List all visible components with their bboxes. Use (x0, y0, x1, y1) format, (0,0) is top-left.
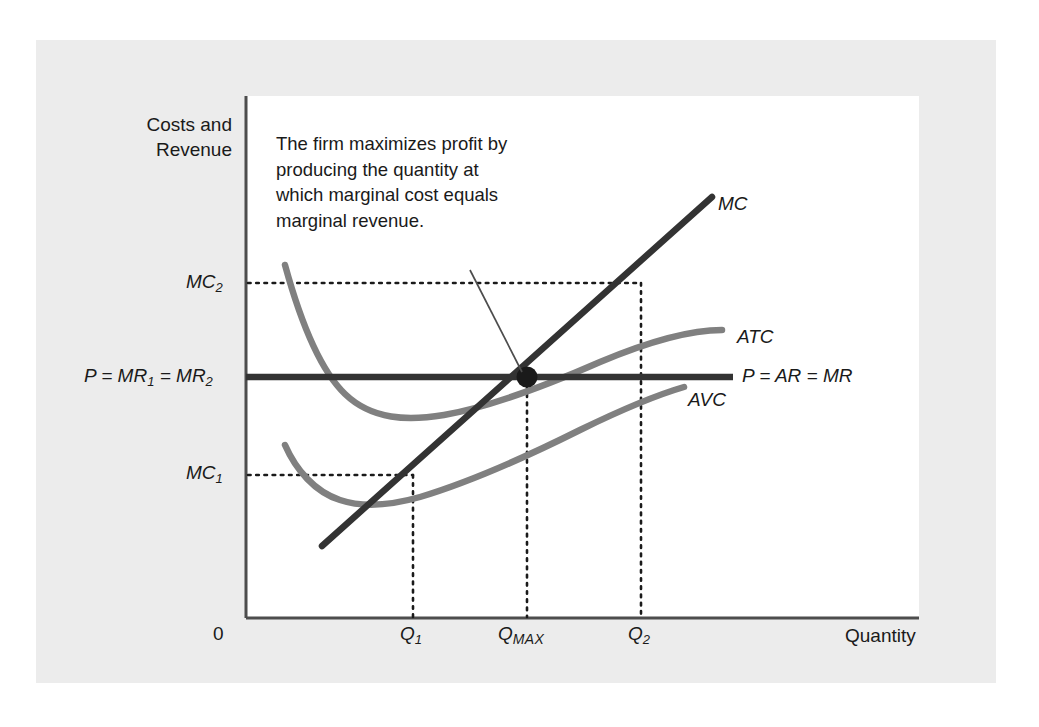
annotation-text: The firm maximizes profit by producing t… (276, 131, 508, 233)
x-tick-label-q1: Q1 (400, 623, 422, 645)
x-tick-qmax-sub: MAX (513, 631, 544, 647)
y-tick-mc2-main: MC (186, 271, 216, 292)
annotation-leader-line (470, 270, 522, 372)
y-tick-label-price: P = MR1 = MR2 (84, 365, 213, 387)
economics-graph (0, 0, 1039, 727)
y-tick-mc1-sub: 1 (216, 471, 223, 486)
curve-label-atc: ATC (737, 326, 774, 348)
profit-max-point-marker (517, 367, 538, 388)
origin-label: 0 (213, 623, 224, 645)
x-axis-title: Quantity (845, 623, 916, 648)
y-tick-label-mc1: MC1 (186, 462, 223, 484)
curve-label-price: P = AR = MR (742, 365, 853, 387)
y-tick-mc1-main: MC (186, 462, 216, 483)
figure-container: Costs and Revenue Quantity The firm maxi… (0, 0, 1039, 727)
mc-line (322, 197, 712, 546)
y-tick-price-main: P = MR (84, 365, 147, 386)
x-tick-q1-sub: 1 (415, 632, 422, 647)
curve-label-avc: AVC (688, 389, 726, 411)
x-tick-qmax-main: Q (498, 623, 513, 644)
y-tick-price-sub1: 1 (147, 374, 154, 389)
y-tick-label-mc2: MC2 (186, 271, 223, 293)
x-tick-label-qmax: QMAX (498, 623, 544, 645)
x-tick-q1-main: Q (400, 623, 415, 644)
curve-label-mc: MC (718, 193, 748, 215)
y-axis-title: Costs and Revenue (128, 112, 232, 162)
x-tick-q2-main: Q (628, 623, 643, 644)
y-tick-price-sub2: 2 (206, 374, 213, 389)
x-tick-q2-sub: 2 (643, 632, 650, 647)
y-tick-price-mid: = MR (154, 365, 205, 386)
y-tick-mc2-sub: 2 (216, 280, 223, 295)
x-tick-label-q2: Q2 (628, 623, 650, 645)
